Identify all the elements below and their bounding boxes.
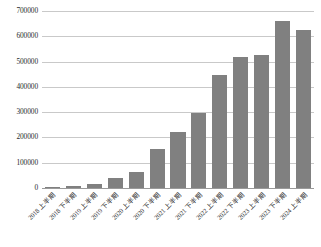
y-tick-label: 300000 — [0, 108, 38, 115]
bar — [129, 172, 144, 188]
bar — [254, 55, 269, 189]
x-label-slot: 2024 上半期 — [293, 190, 314, 247]
y-tick-label: 100000 — [0, 159, 38, 166]
bar — [87, 184, 102, 188]
y-tick-label: 600000 — [0, 33, 38, 40]
y-tick-label: 200000 — [0, 134, 38, 141]
bar — [66, 186, 81, 188]
bar-slot — [293, 11, 314, 188]
bar-slot — [209, 11, 230, 188]
y-tick-label: 500000 — [0, 58, 38, 65]
bar — [296, 30, 311, 188]
bar-slot — [63, 11, 84, 188]
bar-chart: 0100000200000300000400000500000600000700… — [0, 0, 321, 247]
bar-slot — [147, 11, 168, 188]
bar-slot — [42, 11, 63, 188]
bar-series — [42, 11, 314, 188]
bar — [191, 113, 206, 188]
bar — [275, 21, 290, 188]
x-axis-labels: 2018 上半期2018 下半期2019 上半期2019 下半期2020 上半期… — [42, 190, 314, 247]
bar-slot — [188, 11, 209, 188]
bar-slot — [230, 11, 251, 188]
bar-slot — [126, 11, 147, 188]
zero-baseline — [42, 188, 314, 189]
bar-slot — [105, 11, 126, 188]
bar — [233, 57, 248, 188]
bar-slot — [251, 11, 272, 188]
bar — [212, 75, 227, 188]
bar — [150, 149, 165, 188]
bar — [45, 187, 60, 188]
y-tick-label: 400000 — [0, 83, 38, 90]
bar-slot — [272, 11, 293, 188]
y-tick-label: 0 — [0, 184, 38, 191]
y-tick-label: 700000 — [0, 7, 38, 14]
bar — [108, 178, 123, 188]
bar-slot — [84, 11, 105, 188]
bar — [170, 132, 185, 188]
bar-slot — [168, 11, 189, 188]
